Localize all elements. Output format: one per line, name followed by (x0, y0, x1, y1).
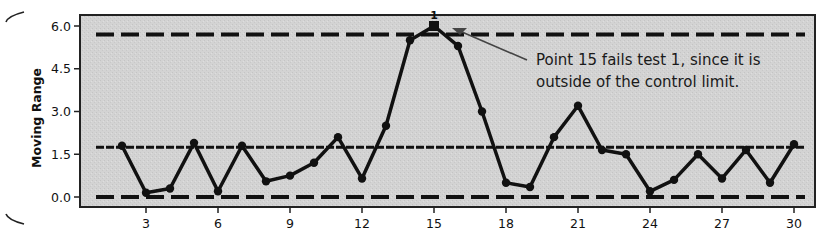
data-point (310, 159, 318, 167)
annotation-text: Point 15 fails test 1, since it is (536, 51, 761, 69)
data-point (334, 133, 342, 141)
x-tick-label: 12 (354, 216, 370, 231)
y-tick-label: 6.0 (51, 19, 71, 34)
data-point (406, 36, 414, 44)
y-tick-label: 4.5 (51, 61, 71, 76)
data-point (190, 139, 198, 147)
data-point (142, 189, 150, 197)
data-point (622, 150, 630, 158)
data-point (526, 183, 534, 191)
y-axis-label: Moving Range (29, 68, 44, 168)
x-tick-label: 18 (498, 216, 514, 231)
test-failure-label: 1 (430, 9, 438, 22)
plot-background (80, 15, 815, 207)
data-point (742, 146, 750, 154)
x-axis: 36912151821242730 (142, 207, 802, 231)
x-tick-label: 15 (426, 216, 442, 231)
x-tick-label: 21 (570, 216, 586, 231)
x-tick-label: 24 (642, 216, 658, 231)
plot-area (80, 15, 815, 207)
data-point (214, 187, 222, 195)
data-point (550, 133, 558, 141)
left-bracket (6, 12, 24, 22)
data-point (286, 171, 294, 179)
x-tick-label: 30 (786, 216, 802, 231)
left-bracket (6, 214, 24, 224)
y-tick-label: 1.5 (51, 147, 71, 162)
data-point (574, 102, 582, 110)
data-point (358, 174, 366, 182)
moving-range-chart: 0.01.53.04.56.0 36912151821242730 1 Poin… (0, 0, 820, 237)
data-point (238, 142, 246, 150)
annotation-text: outside of the control limit. (536, 73, 739, 91)
x-tick-label: 27 (714, 216, 730, 231)
flagged-point-marker (429, 21, 439, 31)
data-point (502, 179, 510, 187)
data-point (670, 176, 678, 184)
x-tick-label: 6 (214, 216, 222, 231)
y-tick-label: 3.0 (51, 104, 71, 119)
data-point (790, 140, 798, 148)
data-point (718, 174, 726, 182)
data-point (646, 187, 654, 195)
data-point (262, 177, 270, 185)
x-tick-label: 9 (286, 216, 294, 231)
data-point (598, 146, 606, 154)
data-point (478, 107, 486, 115)
data-point (166, 184, 174, 192)
data-point (454, 42, 462, 50)
y-axis: 0.01.53.04.56.0 (51, 19, 80, 205)
data-point (382, 122, 390, 130)
data-point (766, 179, 774, 187)
data-point (118, 142, 126, 150)
y-tick-label: 0.0 (51, 190, 71, 205)
x-tick-label: 3 (142, 216, 150, 231)
data-point (694, 150, 702, 158)
